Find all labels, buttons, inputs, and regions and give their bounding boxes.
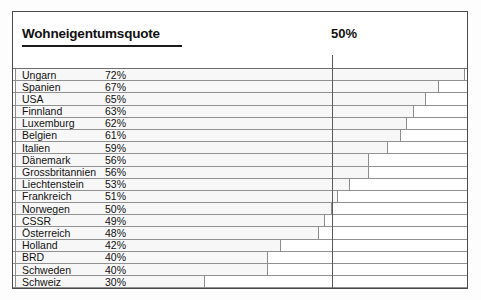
category-label: BRD: [22, 251, 44, 264]
row-separator: [13, 105, 467, 106]
row-separator: [13, 275, 467, 276]
row-left-divider: [15, 69, 16, 81]
table-row: USA65%: [13, 93, 467, 105]
table-row: Dänemark56%: [13, 154, 467, 166]
row-left-divider: [15, 179, 16, 191]
value-label: 61%: [105, 129, 126, 142]
row-separator: [13, 263, 467, 264]
category-label: Belgien: [22, 129, 57, 142]
row-separator: [13, 92, 467, 93]
category-label: Holland: [22, 239, 58, 252]
category-label: USA: [22, 93, 44, 106]
table-row: Finnland63%: [13, 106, 467, 118]
category-label: CSSR: [22, 215, 51, 228]
category-label: Frankreich: [22, 190, 72, 203]
table-row: Grossbritannien56%: [13, 167, 467, 179]
page-title: Wohneigentumsquote: [22, 26, 160, 41]
table-row: Liechtenstein53%: [13, 179, 467, 191]
table-row: Ungarn72%: [13, 69, 467, 81]
category-label: Schweiz: [22, 276, 61, 289]
table-row: BRD40%: [13, 252, 467, 264]
row-left-divider: [15, 106, 16, 118]
chart-frame: Wohneigentumsquote 50% Ungarn72%Spanien6…: [12, 11, 468, 289]
row-left-divider: [15, 118, 16, 130]
row-left-divider: [15, 81, 16, 93]
value-label: 51%: [105, 190, 126, 203]
value-label: 56%: [105, 154, 126, 167]
value-label: 48%: [105, 227, 126, 240]
table-row: Italien59%: [13, 142, 467, 154]
row-left-divider: [15, 142, 16, 154]
chart-rows: Ungarn72%Spanien67%USA65%Finnland63%Luxe…: [13, 69, 467, 288]
category-label: Liechtenstein: [22, 178, 84, 191]
table-row: Norwegen50%: [13, 203, 467, 215]
value-label: 59%: [105, 142, 126, 155]
category-label: Dänemark: [22, 154, 70, 167]
value-label: 50%: [105, 203, 126, 216]
value-label: 53%: [105, 178, 126, 191]
value-label: 63%: [105, 105, 126, 118]
table-row: Schweden40%: [13, 264, 467, 276]
table-row: CSSR49%: [13, 215, 467, 227]
row-left-divider: [15, 240, 16, 252]
row-separator: [13, 214, 467, 215]
reference-line-50: [332, 55, 334, 288]
row-left-divider: [15, 130, 16, 142]
row-left-divider: [15, 154, 16, 166]
category-label: Norwegen: [22, 203, 70, 216]
category-label: Schweden: [22, 264, 71, 277]
value-label: 42%: [105, 239, 126, 252]
value-label: 56%: [105, 166, 126, 179]
table-row: Schweiz30%: [13, 276, 467, 288]
row-left-divider: [15, 203, 16, 215]
row-separator: [13, 153, 467, 154]
row-left-divider: [15, 167, 16, 179]
row-separator: [13, 129, 467, 130]
category-label: Grossbritannien: [22, 166, 96, 179]
row-left-divider: [15, 93, 16, 105]
category-label: Finnland: [22, 105, 62, 118]
category-label: Ungarn: [22, 69, 56, 82]
row-separator: [13, 239, 467, 240]
chart-page: Wohneigentumsquote 50% Ungarn72%Spanien6…: [0, 0, 481, 300]
table-row: Frankreich51%: [13, 191, 467, 203]
value-label: 62%: [105, 117, 126, 130]
row-left-divider: [15, 227, 16, 239]
row-left-divider: [15, 215, 16, 227]
table-row: Österreich48%: [13, 227, 467, 239]
row-left-divider: [15, 191, 16, 203]
value-label: 30%: [105, 276, 126, 289]
value-label: 40%: [105, 264, 126, 277]
axis-tick-label-50: 50%: [331, 26, 357, 41]
row-separator: [13, 251, 467, 252]
category-label: Spanien: [22, 81, 61, 94]
row-separator: [13, 80, 467, 81]
value-label: 40%: [105, 251, 126, 264]
row-left-divider: [15, 276, 16, 288]
table-row: Spanien67%: [13, 81, 467, 93]
value-label: 49%: [105, 215, 126, 228]
value-label: 67%: [105, 81, 126, 94]
category-label: Italien: [22, 142, 50, 155]
row-left-divider: [15, 264, 16, 276]
row-separator: [13, 287, 467, 288]
row-separator: [13, 117, 467, 118]
table-row: Holland42%: [13, 240, 467, 252]
value-label: 65%: [105, 93, 126, 106]
row-separator: [13, 202, 467, 203]
row-separator: [13, 141, 467, 142]
category-label: Österreich: [22, 227, 70, 240]
category-label: Luxemburg: [22, 117, 75, 130]
chart-header: Wohneigentumsquote 50%: [13, 12, 467, 68]
title-underline: [22, 45, 182, 47]
row-separator: [13, 226, 467, 227]
table-row: Belgien61%: [13, 130, 467, 142]
table-row: Luxemburg62%: [13, 118, 467, 130]
row-left-divider: [15, 252, 16, 264]
value-label: 72%: [105, 69, 126, 82]
